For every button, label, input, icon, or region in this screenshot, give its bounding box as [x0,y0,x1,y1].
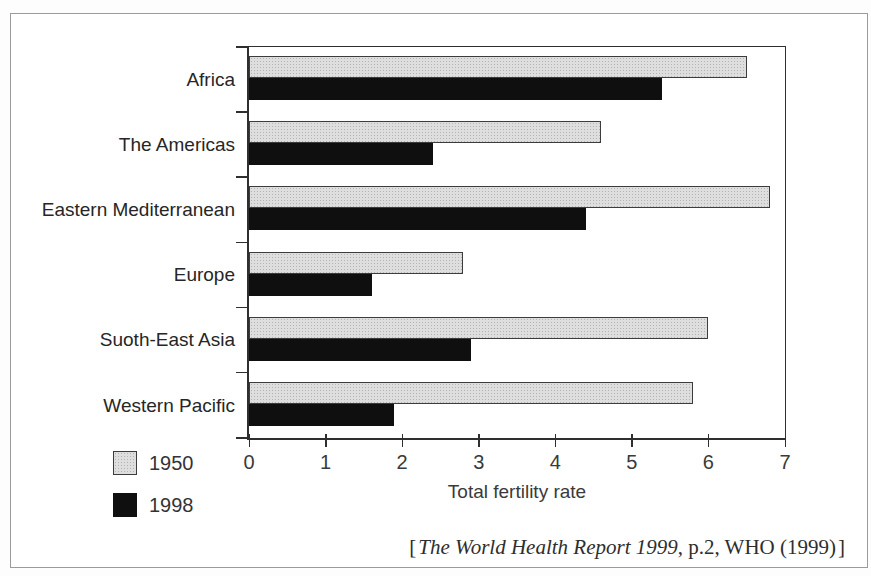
x-axis-tick [631,434,633,447]
legend-label-1950: 1950 [149,452,194,475]
citation-close-bracket: ] [836,535,847,559]
bar-1998-the-americas [249,143,433,165]
y-axis-tick [236,437,247,439]
x-axis-tick-label-4: 4 [535,451,575,474]
x-axis-tick [325,434,327,447]
x-axis-tick-label-1: 1 [306,451,346,474]
y-axis-tick [236,46,247,48]
x-axis-tick-label-6: 6 [688,451,728,474]
scanned-figure-page: AfricaThe AmericasEastern MediterraneanE… [0,0,871,576]
bar-1998-eastern-mediterranean [249,208,586,230]
bar-1998-suoth-east-asia [249,339,471,361]
x-axis-tick-label-3: 3 [459,451,499,474]
x-axis-tick-label-2: 2 [382,451,422,474]
bar-1998-western-pacific [249,404,394,426]
x-axis-tick [785,434,787,447]
legend-item-1998: 1998 [113,493,194,517]
legend-item-1950: 1950 [113,451,194,475]
legend-swatch-1998 [113,493,137,517]
category-label-the-americas: The Americas [21,112,235,177]
x-axis-tick-label-0: 0 [229,451,269,474]
source-citation: [The World Health Report 1999, p.2, WHO … [407,535,847,560]
bar-1950-the-americas [249,121,601,143]
category-label-europe: Europe [21,243,235,308]
x-axis-tick-label-7: 7 [765,451,805,474]
x-axis-tick-label-5: 5 [612,451,652,474]
legend-swatch-1950 [113,451,137,475]
x-axis-tick [555,434,557,447]
category-label-eastern-mediterranean: Eastern Mediterranean [21,177,235,242]
citation-title: The World Health Report 1999 [418,535,677,559]
bar-1998-africa [249,78,662,100]
y-axis-tick [236,111,247,113]
x-axis-tick [402,434,404,447]
bar-1998-europe [249,274,372,296]
category-label-suoth-east-asia: Suoth-East Asia [21,308,235,373]
category-label-western-pacific: Western Pacific [21,373,235,438]
x-axis-tick [708,434,710,447]
plot-area [247,46,786,440]
citation-open-bracket: [ [407,535,418,559]
figure-frame: AfricaThe AmericasEastern MediterraneanE… [10,13,868,568]
bar-1950-western-pacific [249,382,693,404]
y-axis-tick [236,176,247,178]
bar-1950-eastern-mediterranean [249,186,770,208]
category-label-africa: Africa [21,47,235,112]
legend: 1950 1998 [113,451,194,535]
citation-detail: , p.2, WHO (1999) [678,535,836,559]
y-axis-tick [236,372,247,374]
bar-1950-europe [249,252,463,274]
y-axis-tick [236,307,247,309]
bar-1950-suoth-east-asia [249,317,708,339]
y-axis-tick [236,242,247,244]
x-axis-tick [478,434,480,447]
x-axis-title: Total fertility rate [249,481,785,503]
bar-1950-africa [249,56,747,78]
x-axis-tick [249,434,251,447]
legend-label-1998: 1998 [149,494,194,517]
